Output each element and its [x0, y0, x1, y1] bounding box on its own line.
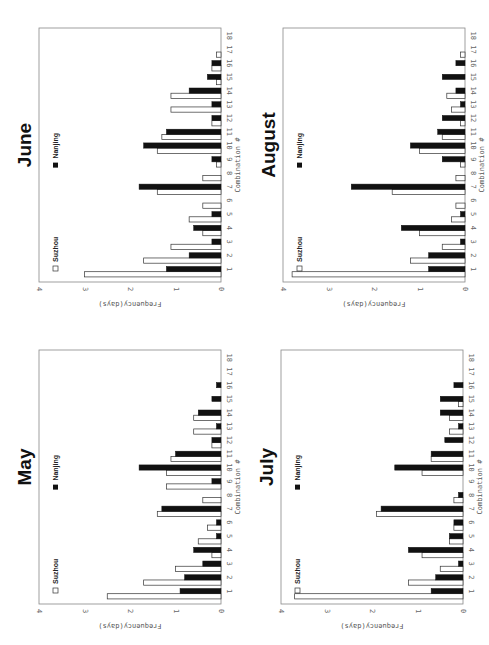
bar-suzhou — [216, 79, 221, 84]
legend-label-nanjing: Nanjing — [52, 455, 60, 481]
category-tick-label: 11 — [469, 128, 477, 136]
category-tick-label: 2 — [225, 253, 233, 257]
bar-nanjing — [212, 157, 221, 162]
category-tick-label: 18 — [225, 353, 233, 361]
bar-suzhou — [454, 525, 463, 530]
bar-chart: 12345678910111213141516171801234Frequenc… — [0, 322, 245, 644]
category-tick-label: 14 — [225, 86, 233, 94]
y-axis-label: Frequency(days) — [342, 300, 405, 308]
chart-title: August — [258, 112, 279, 178]
chart-panel-july: 12345678910111213141516171801234Frequenc… — [242, 322, 487, 644]
category-tick-label: 15 — [467, 395, 475, 403]
category-tick-label: 16 — [469, 59, 477, 67]
bar-suzhou — [203, 498, 221, 503]
bar-nanjing — [180, 588, 221, 593]
value-tick-label: 1 — [172, 609, 180, 613]
bar-nanjing — [431, 451, 463, 456]
bar-suzhou — [410, 258, 465, 263]
bar-suzhou — [194, 415, 221, 420]
x-axis-label: Combination # — [234, 137, 242, 193]
category-tick-label: 14 — [469, 86, 477, 94]
category-tick-label: 6 — [225, 198, 233, 202]
bar-suzhou — [460, 162, 465, 167]
category-tick-label: 3 — [469, 240, 477, 244]
bar-suzhou — [198, 539, 221, 544]
bar-suzhou — [447, 93, 465, 98]
bar-suzhou — [420, 148, 466, 153]
legend-label-nanjing: Nanjing — [296, 133, 304, 159]
bar-nanjing — [212, 479, 221, 484]
bar-nanjing — [207, 74, 221, 79]
bar-suzhou — [203, 203, 221, 208]
bar-suzhou — [451, 217, 465, 222]
category-tick-label: 2 — [469, 253, 477, 257]
bar-nanjing — [139, 184, 221, 189]
bar-suzhou — [166, 470, 221, 475]
bar-suzhou — [440, 566, 463, 571]
category-tick-label: 3 — [225, 562, 233, 566]
category-tick-label: 13 — [225, 100, 233, 108]
bar-suzhou — [171, 93, 221, 98]
category-tick-label: 13 — [467, 422, 475, 430]
bar-nanjing — [438, 129, 465, 134]
bar-suzhou — [392, 189, 465, 194]
bar-nanjing — [454, 520, 463, 525]
chart-panel-august: 12345678910111213141516171801234Frequenc… — [244, 0, 489, 322]
bar-suzhou — [189, 217, 221, 222]
bar-chart: 12345678910111213141516171801234Frequenc… — [0, 0, 245, 322]
category-tick-label: 1 — [225, 267, 233, 271]
category-tick-label: 14 — [467, 408, 475, 416]
category-tick-label: 7 — [469, 185, 477, 189]
bar-nanjing — [166, 266, 221, 271]
bar-suzhou — [85, 272, 222, 277]
bar-nanjing — [166, 129, 221, 134]
category-tick-label: 12 — [467, 436, 475, 444]
category-tick-label: 6 — [469, 198, 477, 202]
bar-nanjing — [176, 451, 222, 456]
bar-suzhou — [162, 134, 221, 139]
category-tick-label: 17 — [469, 45, 477, 53]
legend-label-suzhou: Suzhou — [296, 237, 303, 262]
category-tick-label: 5 — [467, 534, 475, 538]
bar-suzhou — [408, 580, 463, 585]
bar-nanjing — [216, 534, 221, 539]
category-tick-label: 8 — [225, 171, 233, 175]
bar-suzhou — [456, 203, 465, 208]
bar-nanjing — [194, 225, 221, 230]
category-tick-label: 9 — [467, 479, 475, 483]
bar-suzhou — [203, 231, 221, 236]
bar-suzhou — [442, 244, 465, 249]
bar-nanjing — [436, 575, 463, 580]
bar-suzhou — [420, 231, 466, 236]
bar-suzhou — [292, 272, 465, 277]
bar-suzhou — [216, 162, 221, 167]
category-tick-label: 7 — [225, 185, 233, 189]
category-tick-label: 10 — [225, 463, 233, 471]
bar-suzhou — [449, 539, 463, 544]
bar-suzhou — [144, 580, 221, 585]
category-tick-label: 4 — [225, 226, 233, 230]
chart-title: May — [14, 448, 35, 485]
bar-nanjing — [351, 184, 465, 189]
category-tick-label: 1 — [225, 589, 233, 593]
plot-frame — [281, 350, 463, 604]
bar-nanjing — [212, 239, 221, 244]
chart-panel-may: 12345678910111213141516171801234Frequenc… — [0, 322, 245, 644]
category-tick-label: 10 — [225, 141, 233, 149]
category-tick-label: 4 — [225, 548, 233, 552]
category-tick-label: 8 — [467, 493, 475, 497]
bar-suzhou — [194, 429, 221, 434]
category-tick-label: 15 — [469, 73, 477, 81]
value-tick-label: 1 — [416, 287, 424, 291]
bar-nanjing — [216, 383, 221, 388]
category-tick-label: 18 — [467, 353, 475, 361]
bar-suzhou — [157, 189, 221, 194]
bar-suzhou — [212, 553, 221, 558]
category-tick-label: 8 — [225, 493, 233, 497]
bar-suzhou — [295, 594, 463, 599]
value-tick-label: 4 — [279, 287, 287, 291]
category-tick-label: 2 — [467, 575, 475, 579]
bar-nanjing — [212, 61, 221, 66]
bar-chart: 12345678910111213141516171801234Frequenc… — [244, 0, 489, 322]
bar-suzhou — [449, 415, 463, 420]
